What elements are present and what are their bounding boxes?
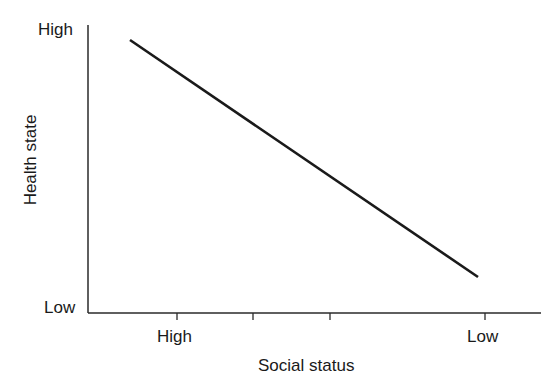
y-axis-title: Health state — [22, 115, 39, 206]
health-gradient-line — [130, 40, 478, 277]
chart-area: High Low High Low Social status Health s… — [0, 0, 557, 391]
x-tick-label-high: High — [157, 328, 192, 345]
x-tick-label-low: Low — [467, 328, 498, 345]
y-tick-label-low: Low — [44, 299, 75, 316]
y-tick-label-high: High — [38, 21, 73, 38]
x-axis-title: Social status — [258, 357, 354, 374]
